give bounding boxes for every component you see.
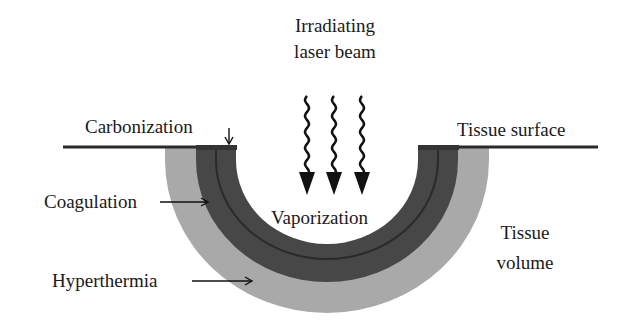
hyperthermia-label: Hyperthermia bbox=[52, 270, 158, 292]
carbonized-rim-right bbox=[418, 145, 459, 150]
carbonized-rim-left bbox=[196, 145, 237, 150]
laser-tissue-interaction-diagram: Irradiating laser beam Carbonization Tis… bbox=[0, 0, 619, 329]
laser-beam-title-line1: Irradiating bbox=[275, 15, 395, 37]
coagulation-label: Coagulation bbox=[44, 191, 137, 213]
tissue-volume-label: Tissue volume bbox=[485, 222, 565, 274]
laser-beam-title-line2: laser beam bbox=[275, 41, 395, 63]
laser-beam-title: Irradiating laser beam bbox=[275, 15, 395, 63]
carbonization-label: Carbonization bbox=[85, 116, 193, 138]
tissue-volume-line2: volume bbox=[485, 252, 565, 274]
vaporization-label: Vaporization bbox=[271, 207, 368, 229]
tissue-volume-line1: Tissue bbox=[485, 222, 565, 244]
carbonization-pointer bbox=[225, 128, 233, 144]
tissue-surface-label: Tissue surface bbox=[457, 119, 566, 141]
